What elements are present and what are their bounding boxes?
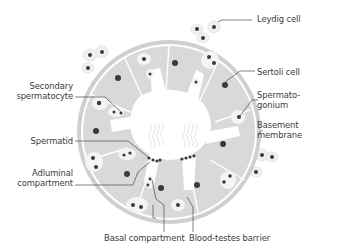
label-text-line1: Adluminal <box>17 168 73 178</box>
label-secondary-spermatocyte: Secondary spermatocyte <box>16 81 73 101</box>
label-text-line1: Basement <box>257 120 302 130</box>
label-spermatid: Spermatid <box>31 136 73 146</box>
label-sertoli-cell: Sertoli cell <box>257 67 300 77</box>
label-text-line1: Secondary <box>16 81 73 91</box>
leydig-cell-cluster-top-right <box>191 21 220 43</box>
label-adluminal-compartment: Adluminal compartment <box>17 168 73 188</box>
label-basal-compartment: Basal compartment <box>104 233 185 243</box>
label-text: Leydig cell <box>257 14 301 24</box>
label-text-line1: Spermato- <box>257 90 300 100</box>
label-text-line2: compartment <box>17 178 73 188</box>
label-text: Spermatid <box>31 136 73 146</box>
label-text-line2: spermatocyte <box>16 91 73 101</box>
label-spermatogonium: Spermato- gonium <box>257 90 300 110</box>
label-text: Sertoli cell <box>257 67 300 77</box>
leader-leydig <box>218 20 252 22</box>
label-leydig-cell: Leydig cell <box>257 14 301 24</box>
label-text-line2: gonium <box>257 100 300 110</box>
label-text: Blood-testes barrier <box>189 233 270 243</box>
label-basement-membrane: Basement membrane <box>257 120 302 140</box>
label-blood-testes-barrier: Blood-testes barrier <box>189 233 270 243</box>
label-text: Basal compartment <box>104 233 185 243</box>
label-text-line2: membrane <box>257 130 302 140</box>
